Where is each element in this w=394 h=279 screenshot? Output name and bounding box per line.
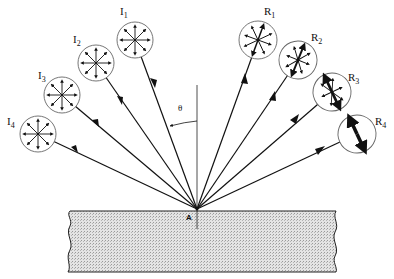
label-sub: 1 (271, 11, 275, 20)
label-sub: 1 (124, 11, 128, 20)
label-sub: 2 (77, 39, 81, 48)
label-r1: R1 (264, 6, 275, 20)
label-i3: I3 (38, 70, 46, 84)
reflecting-surface-slab (68, 211, 337, 272)
point-a-marker (196, 208, 199, 211)
reflection-diagram (0, 0, 394, 279)
incident-rays (38, 40, 197, 209)
label-i2: I2 (73, 34, 81, 48)
label-sub: 4 (11, 121, 15, 130)
point-a-label: A (186, 214, 192, 222)
label-r2: R2 (311, 32, 322, 46)
angle-theta-arc (170, 121, 197, 126)
label-i1: I1 (120, 6, 128, 20)
label-r4: R4 (375, 116, 386, 130)
incident-circles (20, 22, 153, 152)
label-sub: 3 (355, 77, 359, 86)
label-sub: 2 (318, 37, 322, 46)
label-r3: R3 (348, 72, 359, 86)
angle-theta-label: θ (178, 104, 182, 113)
reflected-rays (197, 40, 357, 209)
label-sub: 3 (42, 75, 46, 84)
reflected-arrowheads (241, 73, 325, 155)
label-i4: I4 (7, 116, 15, 130)
label-sub: 4 (382, 121, 386, 130)
